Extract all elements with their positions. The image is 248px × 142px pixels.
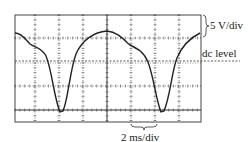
vertical-scale-brace-icon [203, 15, 209, 37]
horizontal-scale-brace-icon [131, 124, 157, 130]
dc-level-label: dc level [202, 48, 237, 59]
vertical-scale-label: 5 V/div [210, 20, 243, 31]
horizontal-scale-label: 2 ms/div [121, 132, 159, 142]
